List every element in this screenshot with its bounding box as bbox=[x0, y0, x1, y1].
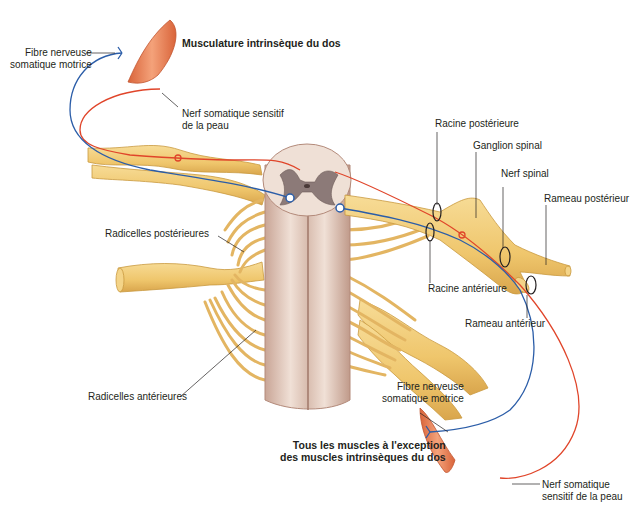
spinal-cord bbox=[263, 144, 351, 410]
right-nerve bbox=[345, 195, 571, 295]
label-line: Tous les muscles à l'exception bbox=[280, 439, 446, 451]
label-nerf-sensitif-top: Nerf somatique sensitif de la peau bbox=[182, 108, 284, 132]
label-racine-posterieure: Racine postérieure bbox=[435, 118, 519, 130]
label-radicelles-anterieures: Radicelles antérieures bbox=[88, 391, 187, 403]
label-nerf-spinal: Nerf spinal bbox=[501, 168, 549, 180]
label-line: somatique motrice bbox=[10, 59, 92, 71]
label-line: Fibre nerveuse bbox=[382, 381, 464, 393]
label-rameau-posterieur: Rameau postérieur bbox=[544, 193, 629, 205]
label-bottom-muscle-title: Tous les muscles à l'exception des muscl… bbox=[280, 439, 446, 463]
muscle-top bbox=[128, 20, 176, 83]
label-radicelles-posterieures: Radicelles postérieures bbox=[105, 228, 209, 240]
label-racine-anterieure: Racine antérieure bbox=[428, 283, 507, 295]
label-line: Nerf somatique sensitif bbox=[182, 108, 284, 120]
label-line: des muscles intrinsèques du dos bbox=[280, 451, 446, 463]
label-fibre-motrice-bottom: Fibre nerveuse somatique motrice bbox=[382, 381, 464, 405]
label-fibre-motrice-top: Fibre nerveuse somatique motrice bbox=[10, 47, 92, 71]
label-ganglion-spinal: Ganglion spinal bbox=[473, 140, 542, 152]
label-line: somatique motrice bbox=[382, 393, 464, 405]
label-line: de la peau bbox=[182, 120, 284, 132]
label-top-muscle-title: Musculature intrinsèque du dos bbox=[182, 37, 341, 49]
label-line: Fibre nerveuse bbox=[10, 47, 92, 59]
label-nerf-sensitif-bottom: Nerf somatique sensitif de la peau bbox=[542, 479, 623, 503]
spinal-cord-diagram bbox=[0, 0, 633, 509]
label-line: sensitif de la peau bbox=[542, 491, 623, 503]
left-nerve bbox=[88, 145, 265, 205]
left-rootlets bbox=[205, 200, 265, 380]
label-line: Nerf somatique bbox=[542, 479, 623, 491]
label-rameau-anterieur: Rameau antérieur bbox=[465, 318, 545, 330]
